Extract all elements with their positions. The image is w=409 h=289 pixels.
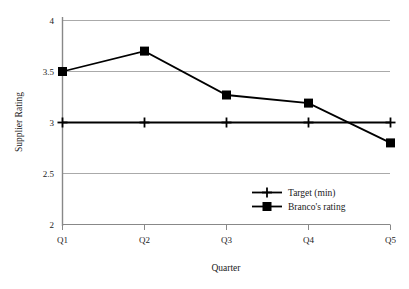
x-axis-ticks <box>63 225 391 231</box>
supplier-rating-line-chart: 4 3.5 3 2.5 2 Q1 Q2 Q3 Q4 Q5 Quarter Sup… <box>0 0 409 289</box>
x-tick-label-q1: Q1 <box>57 235 68 245</box>
series-target-min <box>58 118 396 128</box>
x-tick-label-q4: Q4 <box>303 235 314 245</box>
y-tick-label-4: 4 <box>50 16 55 26</box>
x-tick-label-q2: Q2 <box>139 235 150 245</box>
series-brancos-rating-markers <box>58 47 395 148</box>
y-tick-label-3-5: 3.5 <box>43 67 55 77</box>
y-tick-label-2-5: 2.5 <box>43 169 55 179</box>
legend-marker-square <box>263 202 272 211</box>
x-tick-label-q3: Q3 <box>221 235 232 245</box>
legend-label-brancos-rating: Branco's rating <box>288 202 346 212</box>
legend-label-target-min: Target (min) <box>288 188 335 199</box>
y-axis-title: Supplier Rating <box>14 92 24 152</box>
chart-canvas: 4 3.5 3 2.5 2 Q1 Q2 Q3 Q4 Q5 Quarter Sup… <box>0 0 409 289</box>
x-axis-title: Quarter <box>211 263 241 273</box>
x-tick-label-q5: Q5 <box>385 235 396 245</box>
chart-legend: Target (min) Branco's rating <box>252 188 346 213</box>
legend-item-brancos-rating: Branco's rating <box>252 202 346 212</box>
y-tick-label-3: 3 <box>50 118 55 128</box>
series-brancos-rating <box>58 47 395 148</box>
y-tick-label-2: 2 <box>50 220 55 230</box>
legend-item-target-min: Target (min) <box>252 188 335 200</box>
legend-marker-plus <box>262 188 272 198</box>
